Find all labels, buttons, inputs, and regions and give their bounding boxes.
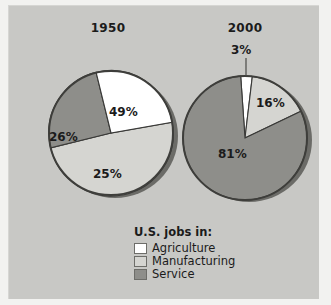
legend-title: U.S. jobs in: xyxy=(134,225,235,239)
legend-item-agriculture: Agriculture xyxy=(134,242,235,254)
pie-2000-label-agriculture: 3% xyxy=(231,43,251,57)
pie-1950-label-manufacturing: 49% xyxy=(109,105,138,119)
chart-title-2000: 2000 xyxy=(205,21,285,35)
legend-label-agriculture: Agriculture xyxy=(152,242,215,254)
legend-label-service: Service xyxy=(152,268,195,280)
pie-2000-label-service: 81% xyxy=(218,147,247,161)
legend: U.S. jobs in: Agriculture Manufacturing … xyxy=(134,225,235,280)
legend-item-service: Service xyxy=(134,268,235,280)
pie-2000-svg xyxy=(171,57,331,207)
legend-label-manufacturing: Manufacturing xyxy=(152,255,235,267)
legend-swatch-agriculture xyxy=(134,243,147,254)
pie-2000-label-manufacturing: 16% xyxy=(256,96,285,110)
pie-1950-label-service: 25% xyxy=(93,167,122,181)
pie-chart-2000: 3% 16% 81% xyxy=(171,57,331,207)
pie-1950-label-agriculture: 26% xyxy=(49,130,78,144)
legend-swatch-manufacturing xyxy=(134,256,147,267)
legend-item-manufacturing: Manufacturing xyxy=(134,255,235,267)
figure-root: 1950 2000 49% 25% 26% xyxy=(0,0,331,305)
legend-swatch-service xyxy=(134,269,147,280)
pie-chart-1950: 49% 25% 26% xyxy=(34,57,194,207)
chart-title-1950: 1950 xyxy=(68,21,148,35)
chart-panel: 1950 2000 49% 25% 26% xyxy=(8,5,319,299)
